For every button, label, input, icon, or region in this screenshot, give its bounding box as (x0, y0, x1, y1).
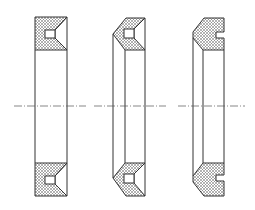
seal-profile-3 (178, 18, 245, 196)
technical-drawing (0, 0, 255, 210)
drawing-svg (0, 0, 255, 210)
seal-profile-1 (14, 17, 86, 196)
seal-profile-2 (94, 18, 166, 196)
